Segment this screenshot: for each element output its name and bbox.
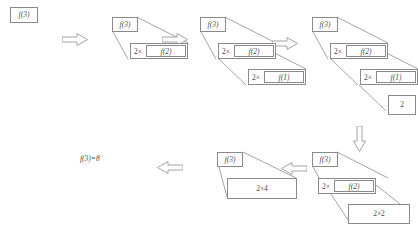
stage3-box-f3: f(3) xyxy=(200,17,226,32)
stage5-box-f3: f(3) xyxy=(312,152,338,167)
stage4-box-base-2: 2 xyxy=(388,95,416,115)
stage3-mult-label-inner: 2× xyxy=(249,70,263,84)
stage4-frame-2x-f2: 2× f(2) xyxy=(330,43,388,59)
stage2-mult-label: 2× xyxy=(131,44,145,58)
stage2-inner-f2: f(2) xyxy=(146,45,186,57)
stage4-inner-f2: f(2) xyxy=(346,45,386,57)
stage5-box-2x2: 2×2 xyxy=(348,204,410,224)
stage5-inner-f2: f(2) xyxy=(334,180,374,192)
stage4-box-f3: f(3) xyxy=(312,17,338,32)
result-text: f(3)=8 xyxy=(80,154,100,163)
stage5-mult-label: 2× xyxy=(319,179,333,193)
stage2-frame-2x-f2: 2× f(2) xyxy=(130,43,188,59)
stage3-frame-2x-f1: 2× f(1) xyxy=(248,69,306,85)
arrow-stage6-to-result xyxy=(157,161,183,174)
stage3-frame-2x-f2: 2× f(2) xyxy=(218,43,276,59)
stage3-mult-label-outer: 2× xyxy=(219,44,233,58)
stage6-box-2x4: 2×4 xyxy=(227,178,297,199)
arrow-stage1-to-stage2 xyxy=(62,33,88,46)
arrow-stage4-to-stage5 xyxy=(353,126,366,152)
arrow-stage5-to-stage6 xyxy=(281,162,307,175)
stage1-box-f3: f(3) xyxy=(10,7,38,23)
stage4-inner-f1: f(1) xyxy=(376,71,416,83)
stage4-mult-label-inner: 2× xyxy=(361,70,375,84)
stage2-box-f3: f(3) xyxy=(112,17,138,32)
stage5-frame-2x-f2: 2× f(2) xyxy=(318,178,376,194)
stage4-mult-label-outer: 2× xyxy=(331,44,345,58)
stage6-box-f3: f(3) xyxy=(217,152,243,167)
recursion-trace-figure: f(3) f(3) 2× f(2) f(3) 2× f(2) 2× f(1) f… xyxy=(0,0,418,240)
stage3-inner-f2: f(2) xyxy=(234,45,274,57)
stage3-inner-f1: f(1) xyxy=(264,71,304,83)
stage4-frame-2x-f1: 2× f(1) xyxy=(360,69,418,85)
